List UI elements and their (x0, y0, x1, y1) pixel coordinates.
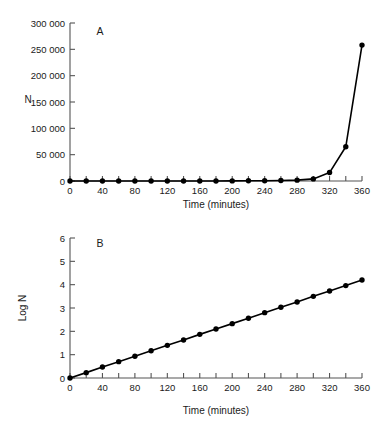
panel-a-data-point (327, 170, 332, 175)
panel-b-ytick-label: 4 (60, 279, 65, 290)
panel-b-svg: 012345604080120160200240280320360BTime (… (0, 214, 382, 429)
panel-a-data-point (343, 144, 348, 149)
panel-a-data-point (294, 177, 299, 182)
panel-a-data-point (213, 178, 218, 183)
panel-a-xtick-label: 240 (257, 185, 273, 196)
panel-b-data-point (278, 305, 283, 310)
panel-b-data-point (359, 277, 364, 282)
panel-a-ytick-label: 100 000 (31, 123, 65, 134)
panel-a-xtick-label: 40 (97, 185, 108, 196)
panel-a-xtick-label: 320 (322, 185, 338, 196)
panel-b-data-point (67, 375, 72, 380)
panel-b-ytick-label: 2 (60, 326, 65, 337)
panel-b-xtick-label: 120 (159, 382, 175, 393)
panel-a-data-point (230, 178, 235, 183)
panel-b-data-point (116, 359, 121, 364)
panel-b-xtick-label: 0 (67, 382, 72, 393)
panel-a-ytick-label: 0 (60, 176, 65, 187)
panel-b-axis-lines (70, 238, 362, 378)
panel-a-svg: 050 000100 000150 000200 000250 000300 0… (0, 0, 382, 215)
panel-a-axis-lines (70, 23, 362, 181)
panel-a-data-point (278, 178, 283, 183)
panel-a-yaxis-title: N (24, 94, 31, 105)
panel-b-data-point (165, 343, 170, 348)
panel-b-data-point (213, 326, 218, 331)
panel-a-xtick-label: 80 (130, 185, 141, 196)
panel-b-xtick-label: 40 (97, 382, 108, 393)
panel-a-ytick-label: 150 000 (31, 97, 65, 108)
panel-b-data-point (181, 337, 186, 342)
panel-b-xaxis-title: Time (minutes) (183, 405, 249, 416)
panel-b-data-point (84, 370, 89, 375)
panel-b-data-point (294, 299, 299, 304)
panel-b-data-point (230, 321, 235, 326)
panel-a-data-point (311, 176, 316, 181)
panel-a-data-point (67, 178, 72, 183)
panel-b-xtick-label: 280 (289, 382, 305, 393)
panel-a-data-point (100, 178, 105, 183)
panel-b-data-point (262, 310, 267, 315)
panel-b-data-point (327, 288, 332, 293)
panel-b-data-point (311, 294, 316, 299)
panel-a-xtick-label: 120 (159, 185, 175, 196)
panel-a-ytick-label: 250 000 (31, 44, 65, 55)
panel-b-data-point (100, 364, 105, 369)
panel-b-xtick-label: 80 (130, 382, 141, 393)
panel-a-data-point (197, 178, 202, 183)
panel-b-ytick-label: 0 (60, 373, 65, 384)
panel-b-data-point (343, 283, 348, 288)
panel-a-data-point (148, 178, 153, 183)
panel-a-data-point (165, 178, 170, 183)
panel-b-data-point (197, 332, 202, 337)
panel-b-xtick-label: 240 (257, 382, 273, 393)
panel-b-ytick-label: 6 (60, 233, 65, 244)
panel-b-panel-letter: B (96, 237, 103, 249)
panel-a-panel-letter: A (96, 25, 103, 37)
panel-b-xtick-label: 160 (192, 382, 208, 393)
panel-a-data-point (84, 178, 89, 183)
panel-b-ytick-label: 1 (60, 349, 65, 360)
growth-curve-figure: 050 000100 000150 000200 000250 000300 0… (0, 0, 382, 429)
panel-a-xtick-label: 200 (224, 185, 240, 196)
panel-b-xtick-label: 320 (322, 382, 338, 393)
panel-b-data-point (246, 316, 251, 321)
panel-b-data-point (132, 354, 137, 359)
panel-a-data-point (262, 178, 267, 183)
panel-a-xtick-label: 280 (289, 185, 305, 196)
panel-a-ytick-label: 300 000 (31, 18, 65, 29)
panel-a-data-point (359, 42, 364, 47)
panel-b-xtick-label: 200 (224, 382, 240, 393)
panel-a-data-point (181, 178, 186, 183)
panel-a-data-point (246, 178, 251, 183)
panel-a-xaxis-title: Time (minutes) (183, 199, 249, 210)
panel-a-xtick-label: 160 (192, 185, 208, 196)
panel-a-data-line (70, 45, 362, 181)
panel-b-data-point (148, 348, 153, 353)
panel-a-xtick-label: 360 (354, 185, 370, 196)
panel-b-yaxis-title: Log N (17, 295, 28, 322)
panel-a-ytick-label: 50 000 (36, 149, 65, 160)
panel-a-arithmetic-plot: 050 000100 000150 000200 000250 000300 0… (0, 0, 382, 215)
panel-b-xtick-label: 360 (354, 382, 370, 393)
panel-a-data-point (116, 178, 121, 183)
panel-a-xtick-label: 0 (67, 185, 72, 196)
panel-a-ytick-label: 200 000 (31, 70, 65, 81)
panel-b-ytick-label: 3 (60, 303, 65, 314)
panel-b-log-plot: 012345604080120160200240280320360BTime (… (0, 214, 382, 429)
panel-a-data-point (132, 178, 137, 183)
panel-b-ytick-label: 5 (60, 256, 65, 267)
